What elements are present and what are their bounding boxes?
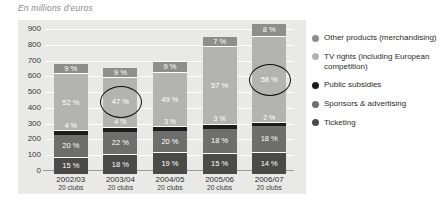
- bar-segment: 7 %: [203, 37, 237, 46]
- bar-segment: 57 %: [203, 47, 237, 123]
- chart-title: En millions d'euros: [18, 3, 93, 13]
- x-axis-labels: 2002/0320 clubs2003/0420 clubs2004/0520 …: [46, 175, 294, 199]
- bar-segment: 18 %: [252, 126, 286, 152]
- bar-segment: 22 %: [103, 132, 137, 155]
- bar-segment-value: 52 %: [62, 99, 79, 107]
- bar-stack: 9 %52 %4 %20 %15 %: [54, 64, 88, 171]
- y-axis-tick-label: 900: [28, 25, 41, 33]
- y-axis-tick-label: 200: [28, 135, 41, 143]
- legend-item[interactable]: Sponsors & advertising: [312, 99, 440, 109]
- y-axis-tick-label: 500: [28, 88, 41, 96]
- legend-color-swatch-icon: [312, 101, 319, 108]
- bar-segment: 9 %: [153, 62, 187, 72]
- bar-segment-value: 4 %: [54, 122, 88, 129]
- bar-segment-value: 20 %: [161, 138, 178, 146]
- bar-segment: 14 %: [252, 153, 286, 174]
- legend-item-label: Other products (merchandising): [324, 33, 437, 43]
- bar-segment-value: 9 %: [114, 69, 127, 77]
- bar-segment-value: 3 %: [203, 115, 237, 122]
- bar-segment-value: 2 %: [252, 114, 286, 121]
- bar-segment-value: 18 %: [261, 135, 278, 143]
- legend-color-swatch-icon: [312, 53, 319, 60]
- legend-color-swatch-icon: [312, 82, 319, 89]
- bar-segment: 9 %: [103, 68, 137, 77]
- bar-segment: 15 %: [203, 154, 237, 174]
- legend-item[interactable]: Ticketing: [312, 118, 440, 128]
- bar-segment-value: 14 %: [261, 160, 278, 168]
- bar-segment-value: 4 %: [103, 118, 137, 125]
- x-axis-label-clubs: 20 clubs: [242, 184, 296, 192]
- x-axis-label-period: 2003/04: [93, 175, 147, 184]
- bar-segment-value: 19 %: [161, 160, 178, 168]
- x-axis-label-clubs: 20 clubs: [193, 184, 247, 192]
- legend-item[interactable]: TV rights (including European competitio…: [312, 52, 440, 72]
- legend-item[interactable]: Other products (merchandising): [312, 33, 440, 43]
- plot-area: 0100200300400500600700800900 9 %52 %4 %2…: [46, 29, 294, 171]
- bar-segment: 58 %: [252, 37, 286, 122]
- y-axis-tick-label: 100: [28, 151, 41, 159]
- x-axis-label: 2005/0620 clubs: [193, 175, 247, 193]
- bar-segment: 8 %: [252, 24, 286, 36]
- x-axis-label: 2003/0420 clubs: [93, 175, 147, 193]
- legend-item-label: Ticketing: [324, 118, 356, 128]
- y-axis-tick-label: 300: [28, 120, 41, 128]
- bar-segment: 20 %: [153, 131, 187, 153]
- bar-segment-value: 7 %: [213, 38, 226, 46]
- x-axis-label-period: 2006/07: [242, 175, 296, 184]
- bar-segment-value: 49 %: [161, 96, 178, 104]
- x-axis-label: 2004/0520 clubs: [143, 175, 197, 193]
- x-axis-label-period: 2004/05: [143, 175, 197, 184]
- chart-root: En millions d'euros 01002003004005006007…: [0, 0, 443, 210]
- bar-segment: 18 %: [203, 129, 237, 153]
- legend-color-swatch-icon: [312, 35, 319, 42]
- y-axis-tick-label: 0: [37, 167, 41, 175]
- y-axis-tick-label: 700: [28, 57, 41, 65]
- bar-segment-value: 18 %: [112, 161, 129, 169]
- bar-segment-value: 58 %: [261, 76, 278, 84]
- bar-segment: 20 %: [54, 135, 88, 156]
- bar-stack: 7 %57 %3 %18 %15 %: [203, 37, 237, 171]
- bar-segment-value: 57 %: [211, 82, 228, 90]
- bar-segment-value: 22 %: [112, 139, 129, 147]
- y-axis-tick-label: 600: [28, 72, 41, 80]
- chart-legend: Other products (merchandising)TV rights …: [312, 33, 440, 137]
- x-axis-label-clubs: 20 clubs: [93, 184, 147, 192]
- bar-segment: 19 %: [153, 153, 187, 174]
- x-axis-label-clubs: 20 clubs: [44, 184, 98, 192]
- x-axis-label: 2006/0720 clubs: [242, 175, 296, 193]
- bar-segment: 15 %: [54, 158, 88, 174]
- bar-segment-value: 20 %: [62, 142, 79, 150]
- bar-stack: 8 %58 %2 %18 %14 %: [252, 24, 286, 171]
- bar-segment: 9 %: [54, 64, 88, 74]
- bar-segment-value: 9 %: [164, 63, 177, 71]
- bar-segment-value: 3 %: [153, 118, 187, 125]
- bar-group: 9 %52 %4 %20 %15 %4 %9 %47 %4 %22 %18 %4…: [46, 29, 294, 171]
- legend-item-label: TV rights (including European competitio…: [324, 52, 440, 72]
- bar-segment-value: 9 %: [64, 65, 77, 73]
- bar-segment: 18 %: [103, 155, 137, 174]
- bar-segment-value: 15 %: [62, 162, 79, 170]
- y-axis-tick-label: 400: [28, 104, 41, 112]
- bar-segment-value: 47 %: [112, 98, 129, 106]
- bar-stack: 9 %49 %3 %20 %19 %: [153, 62, 187, 171]
- x-axis-label: 2002/0320 clubs: [44, 175, 98, 193]
- bar-segment-value: 8 %: [263, 26, 276, 34]
- legend-item[interactable]: Public subsidies: [312, 80, 440, 90]
- y-axis-tick-label: 800: [28, 41, 41, 49]
- x-axis-label-period: 2002/03: [44, 175, 98, 184]
- bar-segment-value: 18 %: [211, 137, 228, 145]
- chart-panel: 0100200300400500600700800900 9 %52 %4 %2…: [18, 20, 306, 194]
- legend-item-label: Sponsors & advertising: [324, 99, 406, 109]
- bar-segment-value: 15 %: [211, 160, 228, 168]
- x-axis-label-period: 2005/06: [193, 175, 247, 184]
- x-axis-label-clubs: 20 clubs: [143, 184, 197, 192]
- legend-color-swatch-icon: [312, 119, 319, 126]
- legend-item-label: Public subsidies: [324, 80, 381, 90]
